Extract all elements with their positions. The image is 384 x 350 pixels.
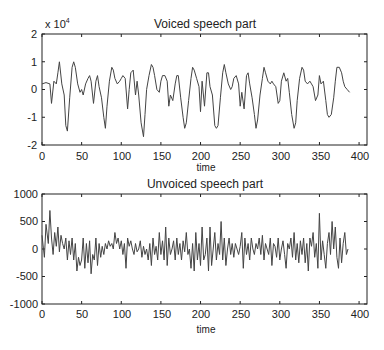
- x-tick-label: 150: [153, 150, 171, 162]
- y-tick-label: 0: [32, 243, 38, 255]
- unvoiced-y-ticks: 1000 500 0 -500 -1000: [10, 188, 38, 310]
- y-tick-label: -1: [27, 111, 37, 123]
- x-tick-label: 350: [312, 308, 330, 320]
- y-tick-label: 1: [31, 56, 37, 68]
- y-tick-label: 0: [31, 83, 37, 95]
- y-tick-label: 500: [20, 215, 38, 227]
- y-tick-label: -500: [16, 270, 38, 282]
- unvoiced-plot-title: Unvoiced speech part: [147, 177, 264, 191]
- unvoiced-x-axis-label: time: [197, 324, 216, 335]
- x-tick-label: 0: [39, 150, 45, 162]
- voiced-waveform-line: [42, 62, 350, 137]
- x-tick-label: 150: [153, 308, 171, 320]
- x-tick-label: 50: [76, 308, 88, 320]
- y-multiplier-label: x 104: [45, 17, 70, 30]
- y-tick-label: 2: [31, 28, 37, 40]
- x-tick-label: 400: [351, 308, 369, 320]
- x-tick-label: 100: [113, 308, 131, 320]
- x-tick-label: 400: [351, 150, 369, 162]
- y-tick-label: -1000: [10, 298, 38, 310]
- unvoiced-waveform-line: [42, 211, 348, 274]
- x-tick-label: 100: [113, 150, 131, 162]
- x-tick-label: 200: [192, 150, 210, 162]
- figure: Voiced speech part x 104 2 1 0 -1 -2 0 5…: [0, 0, 384, 350]
- x-tick-label: 0: [39, 308, 45, 320]
- voiced-y-ticks: 2 1 0 -1 -2: [27, 28, 37, 151]
- voiced-plot: Voiced speech part x 104 2 1 0 -1 -2 0 5…: [27, 17, 369, 173]
- y-tick-label: 1000: [14, 188, 38, 200]
- voiced-x-tick-labels: 0 50 100 150 200 250 300 350 400: [39, 150, 369, 162]
- x-tick-label: 200: [192, 308, 210, 320]
- x-tick-label: 300: [272, 308, 290, 320]
- x-tick-label: 50: [76, 150, 88, 162]
- x-tick-label: 350: [312, 150, 330, 162]
- x-tick-label: 250: [232, 150, 250, 162]
- unvoiced-plot: Unvoiced speech part 1000 500 0 -500 -10…: [10, 177, 369, 335]
- x-tick-label: 250: [232, 308, 250, 320]
- voiced-x-axis-label: time: [197, 162, 216, 173]
- x-tick-label: 300: [272, 150, 290, 162]
- unvoiced-x-tick-labels: 0 50 100 150 200 250 300 350 400: [39, 308, 369, 320]
- voiced-plot-title: Voiced speech part: [154, 17, 257, 31]
- y-tick-label: -2: [27, 139, 37, 151]
